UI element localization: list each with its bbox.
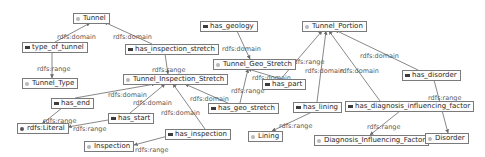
- node-disorder[interactable]: Disorder: [425, 133, 469, 144]
- class-icon: [76, 17, 80, 21]
- node-diagnosis-influencing-factor[interactable]: Diagnosis_Influencing_Factor: [314, 135, 429, 146]
- node-label: type_of_tunnel: [32, 43, 84, 52]
- class-icon: [251, 135, 255, 139]
- node-label: has_lining: [303, 103, 338, 112]
- node-tunnel-inspection-stretch[interactable]: Tunnel_Inspection_Stretch: [123, 74, 228, 85]
- node-has-part[interactable]: has_part: [262, 79, 306, 90]
- ontology-graph-canvas[interactable]: rdfs:domainrdfs:domainrdfs:rangerdfs:ran…: [0, 0, 485, 157]
- node-label: Lining: [258, 132, 279, 141]
- node-rdfs-literal[interactable]: rdfs:Literal: [17, 123, 69, 134]
- edge-arrow: [329, 31, 380, 101]
- node-has-inspection[interactable]: has_inspection: [165, 129, 231, 140]
- class-icon: [216, 63, 220, 67]
- property-icon: [348, 105, 353, 108]
- class-icon: [126, 78, 130, 82]
- node-inspection[interactable]: Inspection: [84, 141, 134, 152]
- node-label: has_geo_stretch: [218, 104, 275, 113]
- node-has-inspection-stretch[interactable]: has_inspection_stretch: [125, 44, 219, 55]
- node-label: has_end: [61, 99, 90, 108]
- node-tunnel-geo-stretch[interactable]: Tunnel_Geo_Stretch: [213, 59, 296, 70]
- edge-label: rdfs:domain: [108, 91, 147, 99]
- literal-icon: [20, 127, 24, 131]
- edge-arrow: [335, 30, 418, 70]
- property-icon: [203, 25, 208, 28]
- property-icon: [168, 133, 173, 136]
- property-icon: [405, 74, 410, 77]
- edge-label: rdfs:domain: [133, 99, 172, 107]
- node-label: has_part: [272, 80, 302, 89]
- edge-label: rdfs:range: [135, 146, 168, 154]
- node-tunnel[interactable]: Tunnel: [73, 13, 110, 24]
- node-label: Tunnel_Geo_Stretch: [223, 60, 292, 69]
- edge-label: rdfs:domain: [190, 95, 229, 103]
- node-has-geology[interactable]: has_geology: [200, 21, 258, 32]
- edge-arrow: [240, 69, 248, 103]
- node-label: Tunnel: [83, 14, 106, 23]
- edge-label: rdfs:range: [152, 66, 185, 74]
- node-label: Inspection: [94, 142, 130, 151]
- property-icon: [296, 106, 301, 109]
- edge-label: rdfs:domain: [57, 33, 96, 41]
- edge-label: rdfs:range: [367, 123, 400, 131]
- property-icon: [211, 107, 216, 110]
- node-label: has_inspection_stretch: [135, 45, 215, 54]
- node-has-disorder[interactable]: has_disorder: [402, 70, 461, 81]
- class-icon: [305, 25, 309, 29]
- node-has-start[interactable]: has_start: [108, 113, 154, 124]
- node-has-lining[interactable]: has_lining: [293, 102, 342, 113]
- edge-label: rdfs:domain: [113, 33, 152, 41]
- node-label: Tunnel_Inspection_Stretch: [133, 75, 224, 84]
- node-tunnel-type[interactable]: Tunnel_Type: [22, 78, 78, 89]
- node-label: Disorder: [435, 134, 465, 143]
- edge-arrow: [134, 136, 168, 145]
- node-label: has_inspection: [175, 130, 227, 139]
- node-has-geo-stretch[interactable]: has_geo_stretch: [208, 103, 279, 114]
- property-icon: [265, 83, 270, 86]
- node-label: has_disorder: [412, 71, 457, 80]
- node-has-diagnosis-influencing-factor[interactable]: has_diagnosis_influencing_factor: [345, 101, 474, 112]
- node-label: has_start: [118, 114, 150, 123]
- edge-label: rdfs:domain: [161, 109, 200, 117]
- class-icon: [317, 139, 321, 143]
- edge-label: rdfs:domain: [222, 45, 261, 53]
- node-label: rdfs:Literal: [27, 124, 65, 133]
- node-label: Tunnel_Portion: [312, 22, 363, 31]
- property-icon: [25, 46, 30, 49]
- class-icon: [25, 82, 29, 86]
- edge-label: rdfs:domain: [340, 67, 379, 75]
- edge-label: rdfs:domain: [305, 67, 344, 75]
- node-label: Diagnosis_Influencing_Factor: [324, 136, 425, 145]
- node-label: has_geology: [210, 22, 254, 31]
- edge-label: rdfs:range: [73, 125, 106, 133]
- edge-label: rdfs:domain: [360, 52, 399, 60]
- property-icon: [54, 102, 59, 105]
- edge-label: rdfs:range: [231, 87, 264, 95]
- edge-label: rdfs:range: [37, 65, 70, 73]
- class-icon: [87, 145, 91, 149]
- node-tunnel-portion[interactable]: Tunnel_Portion: [302, 21, 367, 32]
- node-label: has_diagnosis_influencing_factor: [355, 102, 470, 111]
- node-has-end[interactable]: has_end: [51, 98, 94, 109]
- node-label: Tunnel_Type: [32, 79, 74, 88]
- node-type-of-tunnel[interactable]: type_of_tunnel: [22, 42, 88, 53]
- class-icon: [428, 137, 432, 141]
- property-icon: [111, 117, 116, 120]
- edge-label: rdfs:range: [279, 122, 312, 130]
- property-icon: [128, 48, 133, 51]
- node-lining[interactable]: Lining: [248, 131, 283, 142]
